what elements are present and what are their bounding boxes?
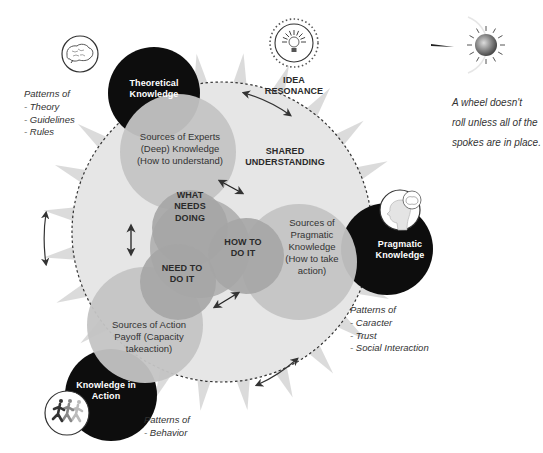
label-line: takeaction) bbox=[99, 343, 199, 355]
note-line: - Rules bbox=[24, 126, 75, 139]
shared-understanding-label: SHARED UNDERSTANDING bbox=[230, 146, 340, 169]
theoretical-knowledge-label: Theoretical Knowledge bbox=[114, 78, 194, 101]
label-line: Knowledge bbox=[360, 250, 440, 261]
label-line: Theoretical bbox=[114, 78, 194, 89]
note-line: Patterns of bbox=[350, 304, 429, 317]
label-line: DO IT bbox=[203, 248, 283, 259]
lightbulb-icon bbox=[270, 19, 318, 67]
label-line: (How to take bbox=[272, 253, 352, 265]
label-line: Action bbox=[66, 391, 146, 402]
quote-line: spokes are in place. bbox=[452, 133, 541, 153]
knowledge-in-action-label: Knowledge in Action bbox=[66, 380, 146, 403]
what-needs-doing-label: WHAT NEEDS DOING bbox=[150, 190, 230, 224]
label-line: Pragmatic bbox=[360, 239, 440, 250]
brain-icon bbox=[62, 36, 98, 72]
label-line: Knowledge bbox=[272, 241, 352, 253]
rim-arrow-left bbox=[44, 213, 46, 264]
label-line: Sources of bbox=[272, 217, 352, 229]
note-line: - Behavior bbox=[144, 427, 190, 440]
note-line: - Trust bbox=[350, 330, 429, 343]
idea-resonance-label: IDEA RESONANCE bbox=[254, 75, 334, 98]
label-line: UNDERSTANDING bbox=[230, 157, 340, 168]
action-patterns-note: Patterns of - Behavior bbox=[144, 414, 190, 440]
note-line: - Social Interaction bbox=[350, 342, 429, 355]
wheel-quote: A wheel doesn't roll unless all of the s… bbox=[452, 93, 541, 153]
label-line: HOW TO bbox=[203, 237, 283, 248]
label-line: SHARED bbox=[230, 146, 340, 157]
label-line: IDEA bbox=[254, 75, 334, 86]
label-line: Sources of Action bbox=[99, 319, 199, 331]
pragmatic-knowledge-label: Pragmatic Knowledge bbox=[360, 239, 440, 262]
head-with-brain-icon bbox=[380, 190, 421, 230]
note-line: - Caracter bbox=[350, 317, 429, 330]
note-line: Patterns of bbox=[24, 88, 75, 101]
note-line: Patterns of bbox=[144, 414, 190, 427]
label-line: Knowledge in bbox=[66, 380, 146, 391]
label-line: DO IT bbox=[142, 274, 222, 285]
label-line: Sources of Experts bbox=[125, 131, 235, 143]
wheel-hub-icon bbox=[431, 17, 505, 73]
label-line: RESONANCE bbox=[254, 86, 334, 97]
sources-pragmatic-label: Sources of Pragmatic Knowledge (How to t… bbox=[272, 217, 352, 276]
pragmatic-patterns-note: Patterns of - Caracter - Trust - Social … bbox=[350, 304, 429, 355]
label-line: (Deep) Knowledge bbox=[125, 143, 235, 155]
quote-line: roll unless all of the bbox=[452, 113, 541, 133]
label-line: action) bbox=[272, 265, 352, 277]
note-line: - Guidelines bbox=[24, 114, 75, 127]
label-line: Knowledge bbox=[114, 89, 194, 100]
need-to-do-it-label: NEED TO DO IT bbox=[142, 263, 222, 286]
label-line: (How to understand) bbox=[125, 155, 235, 167]
how-to-do-it-label: HOW TO DO IT bbox=[203, 237, 283, 260]
label-line: NEEDS bbox=[150, 201, 230, 212]
note-line: - Theory bbox=[24, 101, 75, 114]
label-line: NEED TO bbox=[142, 263, 222, 274]
label-line: Pragmatic bbox=[272, 229, 352, 241]
label-line: WHAT bbox=[150, 190, 230, 201]
quote-line: A wheel doesn't bbox=[452, 93, 541, 113]
sources-action-label: Sources of Action Payoff (Capacity takea… bbox=[99, 319, 199, 355]
label-line: Payoff (Capacity bbox=[99, 331, 199, 343]
sources-experts-label: Sources of Experts (Deep) Knowledge (How… bbox=[125, 131, 235, 167]
theoretical-patterns-note: Patterns of - Theory - Guidelines - Rule… bbox=[24, 88, 75, 139]
label-line: DOING bbox=[150, 213, 230, 224]
